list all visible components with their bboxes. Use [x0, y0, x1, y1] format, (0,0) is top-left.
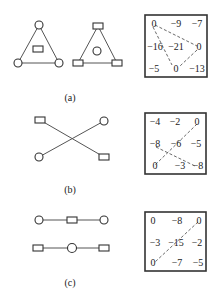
rect-node	[99, 245, 109, 251]
svg-text:−2: −2	[192, 237, 203, 248]
rect-node	[99, 154, 109, 160]
svg-text:0: 0	[153, 160, 158, 171]
panel-b-graph	[35, 117, 109, 161]
svg-text:−7: −7	[192, 18, 203, 29]
svg-text:−5: −5	[193, 257, 204, 268]
panel-b-matrix: −4 −2 0 −8 −6 −5 0 −3 −8	[145, 113, 206, 174]
svg-text:0: 0	[151, 215, 156, 226]
rect-node	[33, 46, 43, 52]
svg-text:−16: −16	[147, 41, 163, 52]
svg-text:0: 0	[174, 63, 179, 74]
circle-node	[100, 216, 108, 224]
panel-a-label: (a)	[64, 92, 75, 104]
panel-a-matrix: 0 −9 −7 −16 −21 0 −5 0 −13	[145, 15, 207, 77]
svg-text:−13: −13	[189, 63, 205, 74]
circle-node	[68, 244, 77, 253]
svg-text:−21: −21	[168, 41, 184, 52]
svg-text:−3: −3	[150, 237, 161, 248]
circle-node	[100, 117, 108, 125]
rect-node	[73, 60, 83, 66]
svg-text:−5: −5	[149, 63, 160, 74]
panel-c-matrix: 0 −8 0 −3 −15 −2 0 −7 −5	[145, 212, 206, 271]
svg-text:−3: −3	[175, 160, 186, 171]
circle-node	[55, 59, 63, 67]
svg-text:0: 0	[152, 18, 157, 29]
figure: (a) 0 −9 −7 −16 −21 0 −5 0 −13 (b) −4 −2…	[0, 0, 221, 296]
panel-a-graph-1	[14, 21, 63, 67]
panel-b-label: (b)	[64, 184, 76, 196]
circle-node	[35, 153, 43, 161]
rect-node	[33, 245, 43, 251]
svg-text:−5: −5	[191, 138, 202, 149]
svg-text:−8: −8	[172, 215, 183, 226]
rect-node	[67, 217, 77, 223]
svg-text:−8: −8	[193, 160, 204, 171]
panel-c-graph-2	[33, 244, 109, 253]
circle-node	[35, 21, 43, 29]
rect-node	[35, 117, 45, 123]
circle-node	[14, 59, 22, 67]
panel-c-graph-1	[35, 216, 108, 224]
rect-node	[112, 60, 122, 66]
svg-text:−6: −6	[171, 138, 182, 149]
svg-text:−2: −2	[170, 116, 181, 127]
svg-text:−4: −4	[150, 116, 161, 127]
svg-text:−9: −9	[171, 18, 182, 29]
svg-text:0: 0	[195, 116, 200, 127]
svg-text:−15: −15	[168, 237, 184, 248]
svg-text:0: 0	[197, 215, 202, 226]
svg-text:0: 0	[151, 257, 156, 268]
circle-node	[35, 216, 43, 224]
circle-node	[93, 47, 101, 55]
svg-text:0: 0	[197, 41, 202, 52]
svg-text:−8: −8	[150, 138, 161, 149]
panel-c-label: (c)	[64, 277, 75, 289]
panel-a-graph-2	[73, 23, 122, 66]
svg-text:−7: −7	[172, 257, 183, 268]
rect-node	[93, 23, 103, 29]
